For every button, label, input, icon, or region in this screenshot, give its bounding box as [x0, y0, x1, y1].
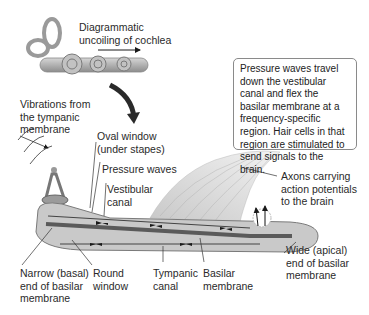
label-oval-window: Oval window (under stapes): [97, 130, 165, 155]
label-tympanic-canal: Tympanic canal: [153, 267, 198, 292]
info-box: Pressure waves travel down the vestibula…: [233, 58, 357, 150]
label-vestibular-canal: Vestibular canal: [107, 183, 153, 208]
label-pressure-waves: Pressure waves: [102, 163, 177, 176]
label-vibrations: Vibrations from the tympanic membrane: [20, 98, 90, 136]
label-uncoiling: Diagrammatic uncoiling of cochlea: [79, 21, 171, 46]
label-axons: Axons carrying action potentials to the …: [281, 170, 357, 208]
label-round-window: Round window: [93, 267, 128, 292]
label-basilar-membrane: Basilar membrane: [203, 267, 253, 292]
label-wide-end: Wide (apical) end of basilar membrane: [286, 244, 349, 282]
label-narrow-end: Narrow (basal) end of basilar membrane: [20, 267, 89, 305]
stapes: [42, 167, 68, 205]
